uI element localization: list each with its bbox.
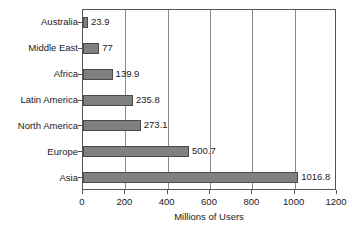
bar-value-label: 235.8: [136, 93, 160, 107]
category-label: Europe: [0, 145, 78, 158]
x-axis-tick-label: 1200: [306, 195, 352, 208]
bar[interactable]: [83, 43, 99, 54]
bar-value-label: 1016.8: [301, 170, 330, 184]
bar[interactable]: [83, 120, 141, 131]
x-axis-title: Millions of Users: [82, 210, 336, 223]
bar-value-label: 273.1: [144, 118, 168, 132]
bar[interactable]: [83, 146, 189, 157]
category-label: North America: [0, 119, 78, 132]
bar-row[interactable]: 23.9: [83, 10, 335, 36]
x-axis-tick: [209, 190, 210, 194]
y-axis-tick: [78, 74, 82, 75]
category-label: Africa: [0, 67, 78, 80]
y-axis-tick: [78, 22, 82, 23]
bar-row[interactable]: 1016.8: [83, 165, 335, 191]
bar[interactable]: [83, 95, 133, 106]
y-axis-tick: [78, 100, 82, 101]
bar[interactable]: [83, 17, 88, 28]
bar-row[interactable]: 77: [83, 36, 335, 62]
bar-row[interactable]: 235.8: [83, 88, 335, 114]
category-label: Middle East: [0, 41, 78, 54]
y-axis-tick: [78, 151, 82, 152]
bar-value-label: 139.9: [116, 67, 140, 81]
y-axis-tick: [78, 177, 82, 178]
x-axis-tick: [167, 190, 168, 194]
bar-value-label: 500.7: [192, 144, 216, 158]
category-label: Asia: [0, 171, 78, 184]
bar-row[interactable]: 139.9: [83, 62, 335, 88]
x-axis-tick: [251, 190, 252, 194]
x-axis-tick: [82, 190, 83, 194]
bar-chart-figure: 23.977139.9235.8273.1500.71016.8 Million…: [0, 0, 352, 228]
x-axis-tick: [124, 190, 125, 194]
chart-title: [0, 0, 352, 1]
bar[interactable]: [83, 172, 298, 183]
x-axis-tick: [294, 190, 295, 194]
bar[interactable]: [83, 69, 113, 80]
y-axis-tick: [78, 48, 82, 49]
bar-row[interactable]: 273.1: [83, 113, 335, 139]
y-axis-tick: [78, 125, 82, 126]
category-label: Latin America: [0, 93, 78, 106]
bar-value-label: 23.9: [91, 15, 110, 29]
x-axis-tick: [336, 190, 337, 194]
bar-row[interactable]: 500.7: [83, 139, 335, 165]
category-label: Australia: [0, 15, 78, 28]
bar-value-label: 77: [102, 41, 113, 55]
plot-area: 23.977139.9235.8273.1500.71016.8: [82, 9, 336, 190]
